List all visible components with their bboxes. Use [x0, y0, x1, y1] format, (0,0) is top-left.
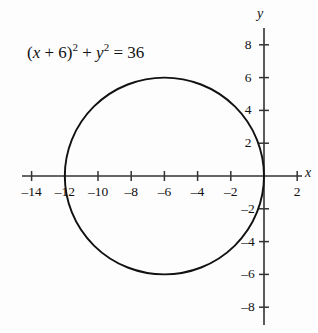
y-axis-label: y: [257, 6, 263, 22]
y-tick-label: –2: [241, 201, 255, 217]
y-tick-label: 4: [245, 102, 252, 118]
y-tick-label: –8: [241, 299, 255, 315]
y-tick-label: –6: [241, 266, 255, 282]
x-tick-label: 2: [294, 184, 301, 200]
x-tick-label: –10: [88, 184, 108, 200]
equation-equals-value: = 36: [109, 43, 144, 62]
x-tick-label: –8: [124, 184, 138, 200]
y-tick-label: 6: [245, 70, 252, 86]
equation-annotation: (x + 6)2 + y2 = 36: [27, 44, 144, 61]
y-tick-label: 8: [245, 37, 252, 53]
equation-plus: +: [78, 43, 96, 62]
x-tick-label: –14: [21, 184, 41, 200]
x-tick-label: –6: [158, 184, 172, 200]
equation-plus-six: + 6: [40, 43, 67, 62]
x-tick-label: –4: [191, 184, 205, 200]
graph-figure: (x + 6)2 + y2 = 36 x y –14–12–10–8–6–4–2…: [0, 0, 318, 333]
y-tick-label: –4: [241, 234, 255, 250]
y-tick-label: 2: [245, 135, 252, 151]
equation-variable-y: y: [96, 43, 104, 62]
x-axis-label: x: [305, 165, 311, 181]
x-tick-label: –12: [55, 184, 75, 200]
x-tick-label: –2: [224, 184, 238, 200]
